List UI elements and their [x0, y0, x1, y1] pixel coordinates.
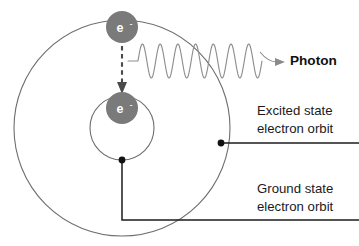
- electron-symbol: e: [117, 102, 124, 116]
- photon-arrowhead-icon: [275, 58, 285, 66]
- excited-state-label-line1: Excited state: [257, 103, 333, 118]
- photon-pointer-line: [260, 52, 277, 62]
- electron-charge-sign: -: [130, 19, 133, 28]
- excited-state-leader: [218, 140, 359, 147]
- bohr-atom-photon-diagram: e - e - Photon Excited state electron or…: [0, 0, 359, 246]
- photon-pointer-arrow: [260, 52, 285, 66]
- electron-transition-arrow: [117, 46, 127, 94]
- diagram-canvas: e - e - Photon Excited state electron or…: [0, 0, 359, 246]
- excited-state-label-line2: electron orbit: [257, 121, 334, 136]
- photon-label: Photon: [290, 53, 337, 68]
- electron-charge-sign: -: [130, 100, 133, 109]
- ground-state-label-line1: Ground state: [257, 181, 333, 196]
- ground-electron: e -: [106, 92, 138, 124]
- excited-state-anchor-dot: [218, 140, 225, 147]
- ground-state-label-line2: electron orbit: [257, 199, 334, 214]
- ground-state-label: Ground state electron orbit: [257, 181, 334, 214]
- excited-state-label: Excited state electron orbit: [257, 103, 334, 136]
- excited-electron: e -: [106, 11, 138, 43]
- ground-state-anchor-dot: [119, 157, 126, 164]
- electron-symbol: e: [117, 21, 124, 35]
